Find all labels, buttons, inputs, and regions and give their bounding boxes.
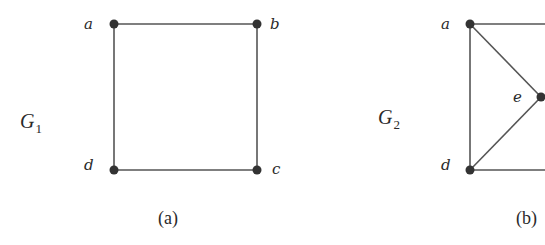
panel-b: a d e G2 (b) [378,15,545,229]
panel-a: a b c d G1 (a) [20,15,281,229]
edge-a-e [470,24,541,97]
graph-figure: a b c d G1 (a) a d e G2 (b) [0,0,545,245]
vertex-a [110,20,119,29]
vertex-a [466,20,475,29]
vertex-b [253,20,262,29]
vertex-label-e: e [513,88,522,106]
vertex-label-b: b [270,15,280,33]
vertex-c [253,166,262,175]
vertex-d [466,166,475,175]
edge-d-e [470,97,541,170]
vertex-label-a: a [84,15,93,33]
caption-b: (b) [516,208,537,229]
graph-name-g2: G2 [378,106,400,132]
vertex-d [110,166,119,175]
graph-name-g1: G1 [20,110,42,136]
vertex-label-c: c [272,160,281,178]
vertex-label-d: d [441,156,451,174]
caption-a: (a) [158,208,178,229]
vertex-label-d: d [84,156,94,174]
vertex-label-a: a [441,15,450,33]
